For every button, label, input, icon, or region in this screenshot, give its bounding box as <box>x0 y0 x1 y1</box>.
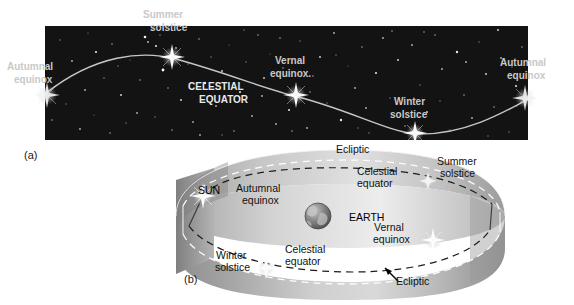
sky-label-winter-solstice-line2: solstice <box>390 109 428 120</box>
band-label-autumnal-equinox-line2: equinox <box>242 194 280 206</box>
sky-label-celestial-equator-line2: EQUATOR <box>199 94 249 105</box>
panel-letter-b: (b) <box>184 273 197 285</box>
band-label-ecliptic-bottom: Ecliptic <box>396 275 429 287</box>
band-label-vernal-equinox-line1: Vernal <box>374 221 404 233</box>
band-label-summer-solstice-line2: solstice <box>440 167 475 179</box>
sky-label-summer-solstice-line1: Summer <box>143 9 183 20</box>
band-label-celestial-bottom-line2: equator <box>285 255 321 267</box>
sky-panel: Autumnal equinox Summer solstice Vernal … <box>7 9 546 145</box>
band-label-celestial-top-line2: equator <box>357 177 393 189</box>
sky-label-autumnal-equinox-left-line1: Autumnal <box>7 61 53 72</box>
band-label-autumnal-equinox-line1: Autumnal <box>236 182 280 194</box>
sky-label-vernal-equinox-line2: equinox. <box>270 68 311 79</box>
band-label-celestial-top-line1: Celestial <box>357 165 397 177</box>
band-label-summer-solstice-line1: Summer <box>437 155 477 167</box>
sky-label-celestial-equator-line1: CELESTIAL <box>188 81 244 92</box>
sky-label-autumnal-equinox-right-line1: Autumnal <box>500 57 546 68</box>
band-label-sun: SUN <box>198 184 220 196</box>
sky-label-vernal-equinox-line1: Vernal <box>275 55 305 66</box>
astronomy-figure: Autumnal equinox Summer solstice Vernal … <box>0 0 574 305</box>
sky-label-autumnal-equinox-left-line2: equinox <box>14 74 53 85</box>
band-label-ecliptic-top: Ecliptic <box>336 143 369 155</box>
sky-label-winter-solstice-line1: Winter <box>394 96 425 107</box>
sky-label-summer-solstice-line2: solstice <box>150 22 188 33</box>
band-label-vernal-equinox-line2: equinox <box>373 233 411 245</box>
band-label-winter-solstice-line2: solstice <box>215 261 250 273</box>
sky-panel-background <box>45 26 528 140</box>
sky-label-autumnal-equinox-right-line2: equinox <box>507 70 546 81</box>
panel-letter-a: (a) <box>24 149 37 161</box>
band-label-celestial-bottom-line1: Celestial <box>285 243 325 255</box>
band-label-winter-solstice-line1: Winter <box>216 249 247 261</box>
